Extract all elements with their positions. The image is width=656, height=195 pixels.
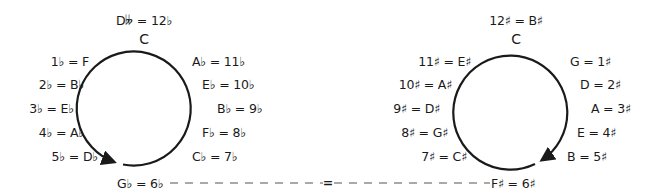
enharmonic-equals-sign: =: [323, 176, 333, 190]
sharps-right-label-5: B = 5♯: [567, 150, 607, 164]
sharps-right-label-1: G = 1♯: [570, 55, 611, 69]
flats-bottom-label: G♭ = 6♭: [117, 177, 163, 191]
sharps-left-label-9: 9♯ = D♯: [393, 102, 440, 116]
flats-left-label-5: 5♭ = D♭: [52, 150, 98, 164]
flats-left-label-1: 1♭ = F: [51, 55, 89, 69]
sharps-left-label-11: 11♯ = E♯: [418, 55, 471, 69]
flats-right-label-7: C♭ = 7♭: [192, 150, 238, 164]
sharps-top-label: 12♯ = B♯: [489, 14, 542, 28]
flats-right-label-11: A♭ = 11♭: [192, 55, 245, 69]
sharps-circle-arc: [453, 56, 567, 170]
flats-top-label: D𝄫 = 12♭: [116, 14, 172, 28]
flats-center-note: C: [139, 32, 149, 46]
sharps-center-note: C: [511, 32, 521, 46]
flats-left-label-2: 2♭ = B♭: [39, 78, 84, 92]
flats-right-label-8: F♭ = 8♭: [202, 126, 246, 140]
sharps-left-label-8: 8♯ = G♯: [401, 126, 448, 140]
flats-left-label-4: 4♭ = A♭: [39, 126, 84, 140]
sharps-left-label-7: 7♯ = C♯: [421, 150, 467, 164]
diagram-shapes: [0, 0, 656, 195]
sharps-right-label-2: D = 2♯: [580, 78, 621, 92]
sharps-bottom-label: F♯ = 6♯: [491, 177, 535, 191]
sharps-right-label-3: A = 3♯: [591, 102, 631, 116]
sharps-right-label-4: E = 4♯: [577, 126, 616, 140]
flats-right-label-9: B♭ = 9♭: [217, 102, 262, 116]
flats-right-label-10: E♭ = 10♭: [202, 78, 254, 92]
circle-of-fifths-diagram: = D𝄫 = 12♭ C 1♭ = F 2♭ = B♭ 3♭ = E♭ 4♭ =…: [0, 0, 656, 195]
flats-left-label-3: 3♭ = E♭: [29, 102, 74, 116]
sharps-left-label-10: 10♯ = A♯: [399, 78, 452, 92]
